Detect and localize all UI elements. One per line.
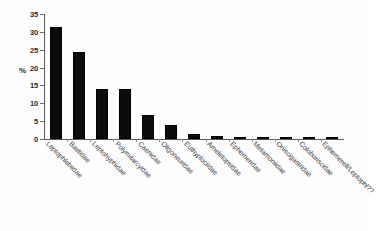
bar bbox=[234, 137, 246, 139]
bar bbox=[326, 137, 338, 139]
bar bbox=[96, 89, 108, 139]
bar bbox=[257, 137, 269, 139]
y-tick-label: 30 bbox=[30, 27, 38, 36]
bar bbox=[73, 52, 85, 140]
bar bbox=[280, 137, 292, 139]
y-tick bbox=[40, 32, 44, 33]
bar bbox=[303, 137, 315, 139]
bar bbox=[211, 136, 223, 139]
y-tick bbox=[40, 68, 44, 69]
bar bbox=[142, 115, 154, 139]
x-axis-labels: LeptophlebiidaeBaetidaeLeptohyphidaePoly… bbox=[44, 140, 368, 231]
y-tick bbox=[40, 14, 44, 15]
y-tick-label: 0 bbox=[34, 135, 38, 144]
y-tick-label: 10 bbox=[30, 99, 38, 108]
y-tick bbox=[40, 103, 44, 104]
y-tick-label: 35 bbox=[30, 10, 38, 19]
bar bbox=[165, 125, 177, 139]
bar bbox=[119, 89, 131, 139]
y-tick-label: 25 bbox=[30, 45, 38, 54]
y-tick bbox=[40, 121, 44, 122]
y-tick-label: 15 bbox=[30, 81, 38, 90]
y-axis-title: % bbox=[19, 66, 26, 75]
plot-area: 05101520253035 bbox=[44, 14, 344, 139]
y-axis-line bbox=[44, 14, 45, 139]
y-tick bbox=[40, 85, 44, 86]
y-tick bbox=[40, 50, 44, 51]
bar bbox=[50, 27, 62, 140]
y-tick-label: 5 bbox=[34, 117, 38, 126]
y-tick-label: 20 bbox=[30, 63, 38, 72]
bar bbox=[188, 134, 200, 139]
